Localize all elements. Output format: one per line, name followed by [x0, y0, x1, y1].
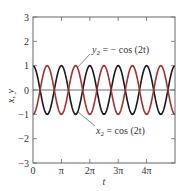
annotation-y2-expr: = − cos (2t) [100, 44, 149, 56]
x-tick-label: 4π [142, 165, 152, 176]
y-tick-label: −2 [18, 133, 29, 144]
x-axis-label: t [103, 176, 106, 187]
annotation-leader-y2 [77, 54, 90, 68]
annotation-x2: x2 = cos (2t) [95, 125, 145, 138]
y-tick-label: 2 [24, 36, 29, 47]
annotation-x2-expr: = cos (2t) [104, 125, 145, 137]
y-axis-label: x, y [5, 89, 16, 104]
chart-container: 3210−1−2−30π2π3π4π x, y t y2 = − cos (2t… [0, 0, 186, 191]
tick-labels-layer: 3210−1−2−30π2π3π4π [18, 12, 151, 177]
y-tick-label: 1 [24, 60, 29, 71]
y-tick-label: −3 [18, 158, 29, 169]
chart-svg: 3210−1−2−30π2π3π4π x, y t y2 = − cos (2t… [0, 0, 186, 191]
y-tick-label: −1 [18, 109, 29, 120]
x-tick-label: π [59, 165, 64, 176]
x-tick-label: 0 [31, 165, 36, 176]
annotation-leader-x2 [78, 112, 95, 126]
y-tick-label: 3 [24, 12, 29, 23]
y-tick-label: 0 [24, 85, 29, 96]
annotation-y2: y2 = − cos (2t) [91, 44, 149, 57]
x-tick-label: 2π [85, 165, 95, 176]
x-tick-label: 3π [113, 165, 123, 176]
